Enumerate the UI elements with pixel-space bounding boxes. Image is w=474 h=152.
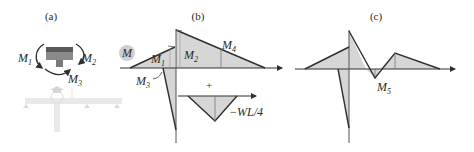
panel-c-label: (c) (370, 10, 383, 23)
panel-c: (c) M5 (295, 10, 455, 143)
m1-arrow-icon (36, 44, 44, 68)
m5-label: M5 (376, 80, 391, 96)
panel-a-label: (a) (45, 10, 58, 23)
m3-b-label: M3 (135, 74, 150, 90)
moment-diagram: (a) M1 M2 M3 (b) M (0, 0, 474, 152)
faded-frame (23, 86, 122, 132)
panel-b-label: (b) (192, 10, 205, 23)
m2-label: M2 (81, 51, 96, 67)
m1-label: M1 (17, 51, 32, 67)
wl4-label: −WL/4 (229, 105, 263, 119)
panel-b: (b) M M1 M2 M4 M3 + −WL/4 (119, 10, 282, 143)
m3-label: M3 (67, 72, 82, 88)
m3-arrow-icon (45, 69, 70, 74)
plus-sign: + (206, 79, 212, 91)
moment-badge-label: M (121, 46, 133, 60)
joint-block (46, 47, 73, 67)
panel-a: (a) M1 M2 M3 (17, 10, 122, 132)
m4-b-label: M4 (221, 38, 236, 54)
